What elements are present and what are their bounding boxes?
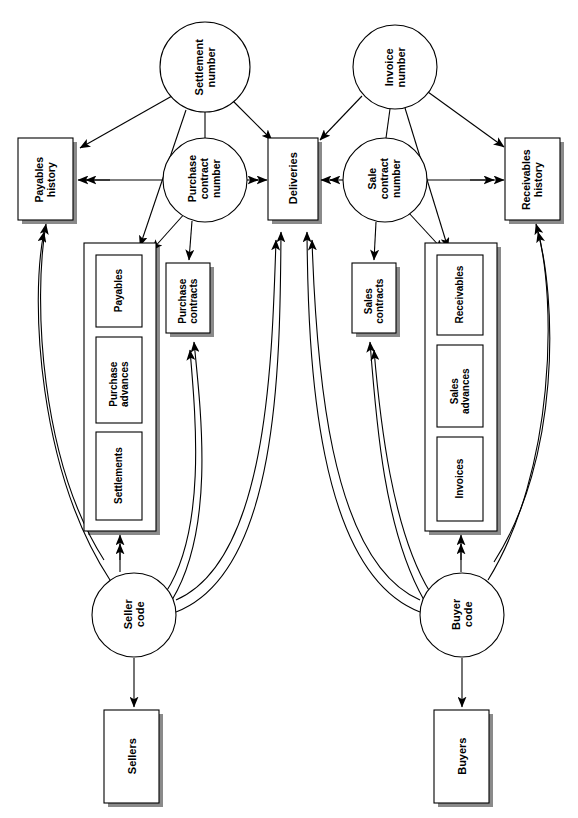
edge-buyer-sales-contracts	[374, 350, 430, 592]
edge-invoice-receivables-history	[428, 92, 504, 147]
edge-pcn-seller-group	[152, 212, 186, 250]
edge-settlement-payables-history	[80, 96, 172, 148]
node-settlement-number	[160, 22, 250, 112]
node-payables-history	[18, 138, 73, 220]
edge-seller-purchase-contracts-2	[172, 342, 202, 600]
edge-invoice-deliveries	[320, 96, 362, 140]
node-sale-contract-number	[343, 138, 427, 222]
node-deliveries	[268, 138, 318, 220]
node-sales-contracts	[352, 263, 396, 333]
node-settlements	[96, 432, 142, 520]
node-purchase-contracts	[166, 263, 210, 333]
edge-settlement-deliveries	[232, 100, 272, 140]
edge-pcn-purchase-contracts	[189, 221, 192, 260]
node-buyers	[434, 710, 489, 803]
node-receivables-history	[505, 138, 560, 220]
node-seller-code	[92, 573, 176, 657]
node-invoice-number	[353, 25, 437, 109]
node-sellers	[104, 710, 159, 803]
node-buyer-code	[420, 573, 504, 657]
node-purchase-advances	[96, 337, 142, 423]
diagram-canvas: Settlement number Invoice number Purchas…	[0, 0, 578, 818]
edge-invoice-scn	[386, 109, 390, 138]
node-receivables	[437, 255, 483, 335]
node-payables	[96, 255, 142, 327]
edge-buyer-sales-contracts-2	[370, 342, 424, 600]
edge-buyer-receivables-history-2	[494, 224, 550, 562]
node-sales-advances	[437, 345, 483, 427]
edge-scn-sales-contracts	[374, 222, 376, 260]
edge-seller-purchase-contracts	[166, 350, 196, 592]
node-invoices	[437, 437, 483, 521]
node-purchase-contract-number	[163, 138, 247, 222]
diagram-svg	[0, 0, 578, 818]
